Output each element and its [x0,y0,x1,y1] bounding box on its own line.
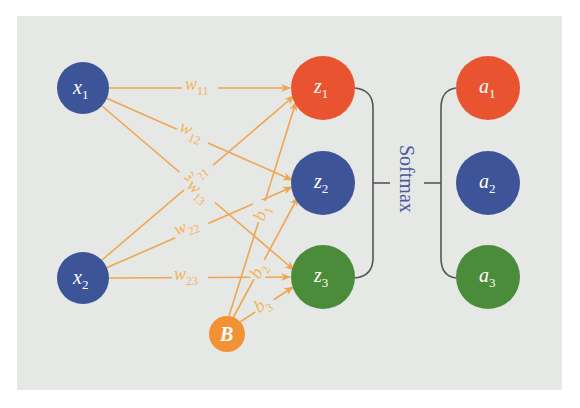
z-node-z2: z2 [291,151,355,215]
z-node-z3: z3 [291,245,355,309]
softmax-label: Softmax [396,145,418,213]
label-w11: w11 [182,74,218,98]
label-b3: b3 [248,289,280,321]
svg-text:B: B [219,323,233,345]
a-node-a2: a2 [456,151,520,215]
network-diagram: w11 w12 w21 w13 w22 w23 b1 b2 [0,0,580,408]
input-node-x2: x2 [57,252,109,304]
z-node-z1: z1 [291,56,355,120]
softmax-bracket-right [424,88,456,278]
label-b1: b1 [248,198,278,226]
softmax-bracket-left [355,88,390,278]
label-b2: b2 [244,255,276,286]
a-node-a1: a1 [456,56,520,120]
input-node-x1: x1 [57,62,109,114]
bias-node-B: B [209,316,245,352]
label-w12: w12 [173,115,214,151]
weight-labels: w11 w12 w21 w13 w22 w23 b1 b2 [169,74,280,321]
a-node-a3: a3 [456,245,520,309]
label-w23: w23 [172,264,208,288]
